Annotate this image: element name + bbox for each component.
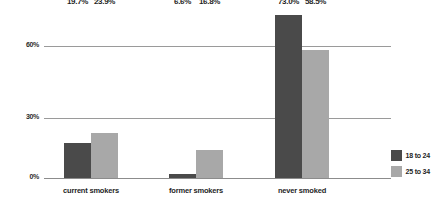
legend: 18 to 24 25 to 34: [391, 150, 430, 177]
bar-18-to-24: [275, 15, 302, 178]
legend-item-18-to-24: 18 to 24: [391, 150, 430, 161]
category-label-never-smoked: never smoked: [278, 186, 326, 195]
bar-25-to-34: [302, 50, 329, 178]
bar-wrap: 16.8%: [196, 8, 223, 178]
legend-label: 18 to 24: [406, 152, 430, 159]
bar-25-to-34: [91, 133, 118, 178]
bar-chart: 60% 30% 19.7% 23.9% 6.6% 16.8%: [0, 0, 436, 216]
category-label-current-smokers: current smokers: [63, 186, 119, 195]
y-axis-tick-30: 30%: [26, 113, 39, 120]
bar-wrap: 58.5%: [302, 8, 329, 178]
bar-25-to-34: [196, 150, 223, 178]
legend-label: 25 to 34: [406, 168, 430, 175]
x-axis-baseline: [44, 178, 391, 179]
bar-value-label: 6.6%: [174, 0, 191, 6]
bar-group-former-smokers: 6.6% 16.8%: [169, 8, 223, 178]
bar-value-label: 19.7%: [67, 0, 88, 6]
plot-area: 60% 30% 19.7% 23.9% 6.6% 16.8%: [44, 8, 391, 178]
category-label-former-smokers: former smokers: [169, 186, 223, 195]
bar-value-label: 16.8%: [199, 0, 220, 6]
bar-wrap: 19.7%: [64, 8, 91, 178]
bar-wrap: 73.0%: [275, 8, 302, 178]
bar-wrap: 6.6%: [169, 8, 196, 178]
legend-swatch-icon: [391, 150, 402, 161]
y-axis-tick-60: 60%: [26, 41, 39, 48]
bar-wrap: 23.9%: [91, 8, 118, 178]
y-axis-tick-0: 0%: [29, 173, 39, 180]
legend-item-25-to-34: 25 to 34: [391, 166, 430, 177]
bar-value-label: 73.0%: [278, 0, 299, 6]
legend-swatch-icon: [391, 166, 402, 177]
bar-group-never-smoked: 73.0% 58.5%: [275, 8, 329, 178]
bar-value-label: 23.9%: [94, 0, 115, 6]
bar-value-label: 58.5%: [305, 0, 326, 6]
bar-18-to-24: [64, 143, 91, 178]
bar-group-current-smokers: 19.7% 23.9%: [64, 8, 118, 178]
